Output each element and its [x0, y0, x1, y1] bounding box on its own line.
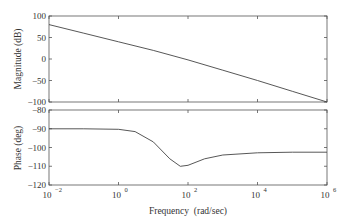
- phase-ytick-label: −120: [27, 180, 46, 190]
- magnitude-ytick-label: −50: [32, 76, 47, 86]
- phase-axes-frame: [49, 110, 327, 185]
- phase-ytick-label: −90: [32, 124, 47, 134]
- phase-ytick-label: −100: [27, 143, 46, 153]
- phase-ylabel: Phase (deg): [13, 126, 24, 171]
- xtick-exponent: 2: [194, 186, 197, 193]
- xtick-label: 10: [321, 190, 331, 200]
- xtick-label: 10: [251, 190, 261, 200]
- phase-ytick-label: −110: [28, 161, 47, 171]
- xtick-exponent: 0: [125, 186, 128, 193]
- magnitude-ylabel: Magnitude (dB): [13, 29, 24, 90]
- xtick-exponent: 6: [333, 186, 337, 193]
- xtick-exponent: 4: [264, 186, 268, 193]
- bode-plot: 100500−50−100 Magnitude (dB) −80−90−100−…: [0, 0, 347, 224]
- xtick-exponent: −2: [55, 186, 62, 193]
- phase-curve: [49, 129, 327, 167]
- magnitude-curve: [49, 25, 327, 102]
- xtick-label: 10: [182, 190, 192, 200]
- xtick-label: 10: [43, 190, 53, 200]
- magnitude-ytick-label: 0: [42, 54, 47, 64]
- frequency-xlabel: Frequency (rad/sec): [149, 206, 227, 217]
- magnitude-ytick-label: 100: [33, 11, 47, 21]
- xtick-label: 10: [112, 190, 122, 200]
- phase-ytick-label: −80: [32, 105, 47, 115]
- magnitude-ytick-label: 50: [37, 33, 47, 43]
